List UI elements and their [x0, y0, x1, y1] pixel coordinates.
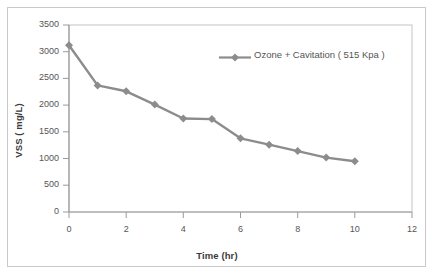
- chart-legend: Ozone + Cavitation ( 515 Kpa ): [218, 49, 385, 60]
- x-tick-label-0: 0: [54, 224, 84, 234]
- x-tick-label-10: 10: [340, 224, 370, 234]
- y-axis-ticks: [63, 25, 69, 212]
- y-tick-label-1500: 1500: [25, 126, 59, 136]
- y-tick-label-3000: 3000: [25, 46, 59, 56]
- x-tick-label-4: 4: [168, 224, 198, 234]
- x-axis-ticks: [69, 212, 412, 218]
- y-tick-label-0: 0: [25, 206, 59, 216]
- x-tick-label-8: 8: [283, 224, 313, 234]
- y-tick-label-3500: 3500: [25, 19, 59, 29]
- y-tick-label-2500: 2500: [25, 72, 59, 82]
- legend-line-marker-icon: [218, 49, 252, 60]
- x-tick-label-12: 12: [397, 224, 427, 234]
- x-tick-label-6: 6: [226, 224, 256, 234]
- y-tick-label-500: 500: [25, 179, 59, 189]
- y-axis-title: VSS ( mg/L): [13, 81, 24, 181]
- legend-entry-label: Ozone + Cavitation ( 515 Kpa ): [252, 49, 385, 60]
- chart-figure: 3500 3000 2500 2000 1500 1000 500 0 0 2 …: [0, 0, 434, 276]
- x-axis-title: Time (hr): [0, 250, 434, 261]
- y-tick-label-1000: 1000: [25, 153, 59, 163]
- x-tick-label-2: 2: [111, 224, 141, 234]
- y-tick-label-2000: 2000: [25, 99, 59, 109]
- line-chart-plot: [0, 0, 434, 276]
